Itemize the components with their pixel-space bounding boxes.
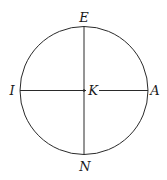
label-a: A	[149, 83, 159, 98]
center-point	[83, 89, 85, 91]
label-e: E	[78, 10, 89, 25]
label-k: K	[87, 83, 99, 98]
circle-diagram: E I K A N	[0, 0, 167, 180]
label-n: N	[78, 159, 91, 174]
label-i: I	[8, 83, 15, 98]
